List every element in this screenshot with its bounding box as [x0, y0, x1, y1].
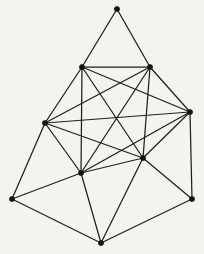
graph-vertex-upper-left[interactable]: [79, 64, 84, 69]
graph-vertex-apex[interactable]: [114, 6, 119, 11]
graph-vertex-bottom-mid[interactable]: [98, 240, 103, 245]
graph-vertex-bottom-left[interactable]: [9, 196, 14, 201]
figure-canvas: [0, 0, 204, 254]
graph-vertex-inner-left[interactable]: [78, 170, 83, 175]
graph-vertex-mid-right[interactable]: [187, 109, 192, 114]
graph-vertex-upper-right[interactable]: [147, 64, 152, 69]
graph-vertex-bottom-right[interactable]: [189, 196, 194, 201]
graph-vertex-inner-right[interactable]: [140, 155, 145, 160]
graph-vertex-mid-left[interactable]: [42, 120, 47, 125]
figure-background: [0, 0, 204, 254]
graph-diagram: [0, 0, 204, 254]
